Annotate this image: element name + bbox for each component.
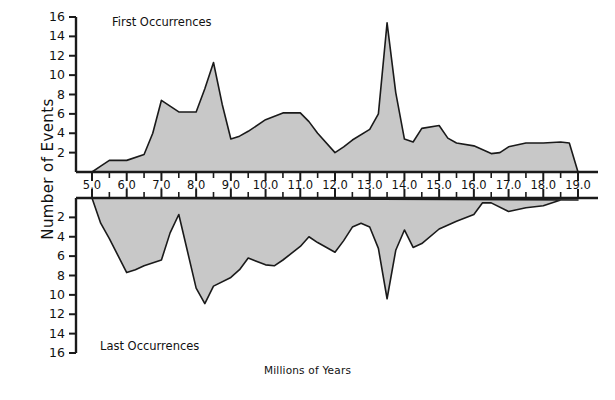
x-tick-label: 19.0 [565, 178, 591, 192]
panel-label-last-occurrences: Last Occurrences [100, 339, 199, 353]
y-tick-label: 16 [49, 345, 65, 360]
y-tick-label: 6 [57, 248, 65, 263]
x-tick-label: 8.0 [187, 178, 205, 192]
y-tick-label: 8 [57, 268, 65, 283]
x-axis-title: Millions of Years [0, 364, 615, 376]
y-tick-label: 14 [49, 28, 65, 43]
y-tick-label: 14 [49, 326, 65, 341]
x-tick-label: 16.0 [461, 178, 487, 192]
y-tick-label: 2 [57, 145, 65, 160]
x-tick-label: 11.0 [287, 178, 313, 192]
x-tick-label: 7.0 [152, 178, 170, 192]
x-tick-label: 10.0 [253, 178, 279, 192]
y-tick-label: 16 [49, 9, 65, 24]
x-tick-label: 17.0 [496, 178, 522, 192]
x-tick-label: 14.0 [392, 178, 418, 192]
panel-label-first-occurrences: First Occurrences [112, 15, 212, 29]
area-series-first-occurrences [92, 23, 578, 172]
x-tick-label: 6.0 [118, 178, 136, 192]
y-tick-label: 12 [49, 48, 65, 63]
y-tick-label: 12 [49, 306, 65, 321]
y-tick-label: 2 [57, 209, 65, 224]
area-series-last-occurrences [92, 198, 578, 304]
x-tick-label: 13.0 [357, 178, 383, 192]
x-tick-label: 5.0 [83, 178, 101, 192]
y-tick-label: 4 [57, 229, 65, 244]
x-tick-label: 9.0 [222, 178, 240, 192]
x-tick-label: 18.0 [530, 178, 556, 192]
x-tick-label: 12.0 [322, 178, 348, 192]
figure-container: 2468101214162468101214165.06.07.08.09.01… [0, 0, 615, 400]
y-tick-label: 10 [49, 287, 65, 302]
y-tick-label: 4 [57, 125, 65, 140]
x-tick-label: 15.0 [426, 178, 452, 192]
y-tick-label: 6 [57, 106, 65, 121]
y-axis-title: Number of Events [39, 69, 57, 269]
y-tick-label: 8 [57, 87, 65, 102]
chart-canvas: 2468101214162468101214165.06.07.08.09.01… [0, 0, 615, 400]
